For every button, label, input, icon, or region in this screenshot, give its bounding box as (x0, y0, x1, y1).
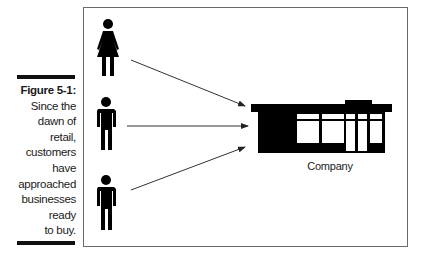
man-icon (97, 175, 116, 230)
woman-icon (97, 19, 119, 76)
diagram-art (0, 0, 429, 261)
man-icon (97, 97, 116, 150)
storefront-icon (251, 100, 392, 153)
arrow-to-company (131, 147, 245, 190)
arrow-to-company (131, 60, 245, 106)
company-label: Company (300, 160, 360, 172)
